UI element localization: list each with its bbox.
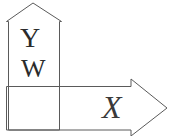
right-arrow-shape xyxy=(7,79,168,136)
figure-canvas: Y W X xyxy=(0,0,170,136)
label-x: X xyxy=(102,91,122,123)
right-arrow-outline xyxy=(7,79,168,136)
label-y: Y xyxy=(20,24,40,52)
label-w: W xyxy=(21,56,46,82)
